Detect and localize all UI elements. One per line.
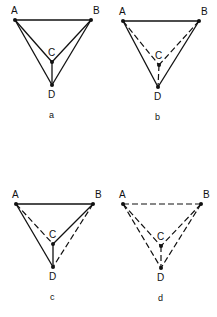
vertex-label-d: D xyxy=(154,91,161,102)
edge-ad xyxy=(16,204,53,267)
vertex-c xyxy=(157,63,161,67)
edge-bc xyxy=(159,21,199,65)
vertex-label-b: B xyxy=(95,189,102,200)
vertex-b xyxy=(89,18,93,22)
vertex-a xyxy=(121,202,125,206)
panel-c: ABCDc xyxy=(12,189,102,302)
panel-caption: d xyxy=(158,293,163,303)
edge-ad xyxy=(123,21,158,87)
vertex-d xyxy=(159,266,163,270)
edge-ac xyxy=(16,204,53,244)
vertex-c xyxy=(159,244,163,248)
vertex-label-c: C xyxy=(157,231,164,242)
vertex-label-a: A xyxy=(119,189,126,200)
vertex-c xyxy=(50,60,54,64)
vertex-c xyxy=(51,242,55,246)
vertex-label-c: C xyxy=(48,47,55,58)
diagram-canvas: ABCDa ABCDb ABCDc ABCDd xyxy=(0,0,217,317)
vertex-label-a: A xyxy=(12,189,19,200)
panel-d: ABCDd xyxy=(119,189,210,303)
edge-ad xyxy=(15,20,52,85)
vertex-label-b: B xyxy=(203,189,210,200)
panel-caption: a xyxy=(49,110,54,120)
edge-bd xyxy=(53,204,93,267)
vertex-label-c: C xyxy=(155,50,162,61)
vertex-label-d: D xyxy=(49,271,56,282)
vertex-b xyxy=(199,202,203,206)
vertex-label-c: C xyxy=(49,229,56,240)
vertex-label-d: D xyxy=(48,89,55,100)
edge-bc xyxy=(53,204,93,244)
vertex-label-a: A xyxy=(11,5,18,16)
vertex-d xyxy=(51,265,55,269)
panel-caption: c xyxy=(50,292,55,302)
vertex-label-b: B xyxy=(201,6,208,17)
vertex-a xyxy=(14,202,18,206)
edge-bc xyxy=(161,204,201,246)
panel-a: ABCDa xyxy=(11,5,100,120)
vertex-b xyxy=(91,202,95,206)
edge-ad xyxy=(123,204,161,268)
vertex-d xyxy=(156,85,160,89)
panel-b: ABCDb xyxy=(119,6,208,122)
vertex-label-a: A xyxy=(119,6,126,17)
edge-ac xyxy=(123,204,161,246)
edge-ac xyxy=(123,21,159,65)
vertex-d xyxy=(50,83,54,87)
edge-cd xyxy=(158,65,159,87)
edge-bd xyxy=(161,204,201,268)
vertex-b xyxy=(197,19,201,23)
edge-bc xyxy=(52,20,91,62)
edge-bd xyxy=(158,21,199,87)
edge-ac xyxy=(15,20,52,62)
edge-bd xyxy=(52,20,91,85)
panel-caption: b xyxy=(155,112,160,122)
vertex-a xyxy=(121,19,125,23)
vertex-label-d: D xyxy=(157,272,164,283)
vertex-a xyxy=(13,18,17,22)
vertex-label-b: B xyxy=(93,5,100,16)
